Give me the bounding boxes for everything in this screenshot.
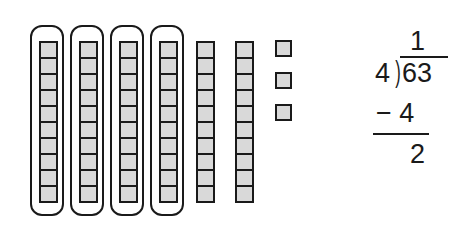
rod-cell [198,59,213,75]
rod-cell [237,187,252,201]
rod-cell [237,171,252,187]
rod-cell [161,43,176,59]
divisor: 4 [375,60,390,87]
rod-cell [237,123,252,139]
rod-cell [121,43,136,59]
rod-cell [198,107,213,123]
rod-cell [161,107,176,123]
rod-cell [161,171,176,187]
rod-cell [81,187,96,201]
tens-rod-grouped-1 [39,41,58,203]
rod-cell [198,139,213,155]
rod-cell [121,187,136,201]
unit-cube-2 [275,72,292,89]
rod-cell [41,91,56,107]
rod-cell [198,187,213,201]
rod-cell [121,155,136,171]
rod-cell [41,139,56,155]
tens-rod-leftover-1 [196,41,215,203]
subtraction-line [373,133,429,135]
rod-cell [161,139,176,155]
rod-cell [161,123,176,139]
rod-cell [237,43,252,59]
rod-cell [81,123,96,139]
tens-rod-grouped-2 [79,41,98,203]
rod-cell [121,59,136,75]
rod-cell [81,107,96,123]
rod-cell [198,123,213,139]
rod-cell [41,43,56,59]
rod-cell [237,91,252,107]
rod-cell [237,107,252,123]
rod-cell [41,155,56,171]
rod-cell [161,75,176,91]
rod-cell [81,171,96,187]
rod-cell [161,91,176,107]
rod-cell [121,75,136,91]
rod-cell [81,155,96,171]
rod-cell [198,43,213,59]
rod-cell [81,91,96,107]
rod-cell [41,107,56,123]
rod-cell [237,155,252,171]
rod-cell [121,123,136,139]
rod-cell [198,91,213,107]
unit-cube-1 [275,40,292,57]
rod-cell [161,187,176,201]
rod-cell [41,59,56,75]
rod-cell [41,123,56,139]
tens-rod-grouped-4 [159,41,178,203]
remainder: 2 [410,141,425,168]
tens-rod-leftover-2 [235,41,254,203]
rod-cell [81,43,96,59]
rod-cell [237,139,252,155]
unit-cube-3 [275,104,292,121]
rod-cell [81,139,96,155]
rod-cell [41,171,56,187]
rod-cell [161,155,176,171]
rod-cell [121,91,136,107]
rod-cell [237,75,252,91]
tens-rod-grouped-3 [119,41,138,203]
rod-cell [237,59,252,75]
rod-cell [81,75,96,91]
quotient: 1 [410,28,425,55]
rod-cell [81,59,96,75]
rod-cell [41,187,56,201]
rod-cell [121,171,136,187]
rod-cell [198,171,213,187]
rod-cell [198,75,213,91]
rod-cell [41,75,56,91]
rod-cell [161,59,176,75]
subtrahend: − 4 [376,100,414,127]
division-bracket: ) [395,57,401,87]
rod-cell [121,107,136,123]
rod-cell [121,139,136,155]
dividend: 63 [402,60,432,87]
rod-cell [198,155,213,171]
